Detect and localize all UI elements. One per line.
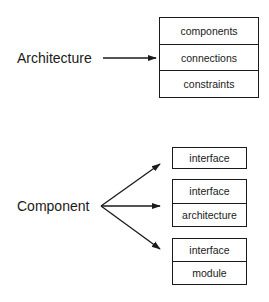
interface-cell: interface xyxy=(173,180,246,203)
component-label: Component xyxy=(17,198,89,214)
module-cell: module xyxy=(173,261,246,284)
interface-cell: interface xyxy=(173,148,246,168)
architecture-label: Architecture xyxy=(17,50,92,66)
component-arrow-to-interface-module xyxy=(101,206,160,249)
connections-cell: connections xyxy=(160,44,258,71)
architecture-stack: components connections constraints xyxy=(159,17,259,98)
interface-module-box: interface module xyxy=(172,238,247,285)
interface-architecture-box: interface architecture xyxy=(172,179,247,227)
component-arrow-to-interface xyxy=(101,164,160,206)
constraints-cell: constraints xyxy=(160,70,258,97)
interface-only-box: interface xyxy=(172,147,247,169)
components-cell: components xyxy=(160,18,258,44)
interface-cell: interface xyxy=(173,239,246,261)
architecture-cell: architecture xyxy=(173,203,246,227)
